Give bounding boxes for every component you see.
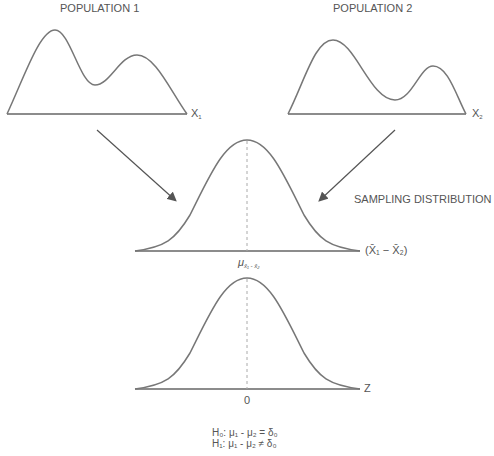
alternative-hypothesis: H₁: μ₁ - μ₂ ≠ δ₀	[212, 438, 278, 449]
population1-title: POPULATION 1	[60, 2, 139, 14]
z-axis-label: Z	[364, 382, 371, 394]
population2-curve	[288, 40, 466, 114]
zero-center-label: 0	[244, 394, 250, 406]
hypotheses: H₀: μ₁ - μ₂ = δ₀ H₁: μ₁ - μ₂ ≠ δ₀	[212, 427, 278, 449]
null-hypothesis: H₀: μ₁ - μ₂ = δ₀	[212, 427, 278, 438]
diagram-canvas	[0, 0, 494, 456]
x1-axis-label: X1	[191, 107, 202, 120]
arrow-left	[97, 130, 175, 200]
z-distribution-curve	[135, 278, 360, 389]
mu-center-label: μx̄₁ - x̄₂	[238, 256, 260, 269]
arrow-right	[320, 130, 395, 200]
sampling-distribution-curve	[135, 140, 360, 251]
difference-axis-label: (X̄₁ − X̄₂)	[365, 244, 408, 256]
x2-axis-label: X2	[472, 107, 483, 120]
population1-curve	[7, 30, 187, 114]
sampling-distribution-title: SAMPLING DISTRIBUTION	[354, 193, 492, 205]
population2-title: POPULATION 2	[333, 2, 412, 14]
